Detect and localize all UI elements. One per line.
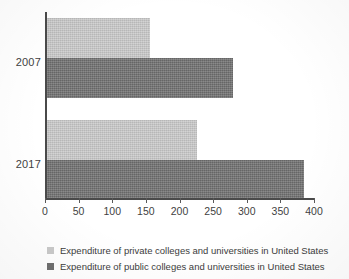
legend-item-private: Expenditure of private colleges and univ…	[47, 243, 337, 257]
legend-swatch-public-icon	[47, 263, 54, 270]
x-axis-tick	[146, 198, 147, 203]
x-axis-tick-label: 400	[294, 205, 334, 217]
x-axis-tick	[213, 198, 214, 203]
legend-label-private: Expenditure of private colleges and univ…	[60, 245, 328, 256]
category-label-2017: 2017	[1, 158, 41, 170]
bar-group-2007	[47, 18, 316, 102]
bar-group-2017	[47, 120, 316, 204]
bar-private-2017	[47, 120, 197, 160]
bar-private-2007	[47, 18, 150, 58]
x-axis-tick	[247, 198, 248, 203]
bar-public-2017	[47, 160, 304, 200]
legend-item-public: Expenditure of public colleges and unive…	[47, 259, 337, 273]
bar-chart-figure: 2007 2017 050100150200250300350400 Expen…	[0, 0, 349, 279]
legend-label-public: Expenditure of public colleges and unive…	[60, 261, 325, 272]
chart-legend: Expenditure of private colleges and univ…	[47, 243, 337, 275]
x-axis-tick	[180, 198, 181, 203]
legend-swatch-private-icon	[47, 247, 54, 254]
x-axis-tick	[45, 198, 46, 203]
bar-public-2007	[47, 58, 233, 98]
category-label-2007: 2007	[1, 56, 41, 68]
x-axis-tick	[112, 198, 113, 203]
x-axis-tick	[79, 198, 80, 203]
plot-area	[45, 12, 316, 198]
x-axis-tick	[280, 198, 281, 203]
x-axis-tick	[314, 198, 315, 203]
